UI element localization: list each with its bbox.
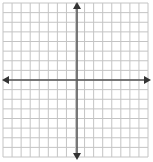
axes xyxy=(2,2,151,160)
coordinate-plane xyxy=(0,0,153,162)
